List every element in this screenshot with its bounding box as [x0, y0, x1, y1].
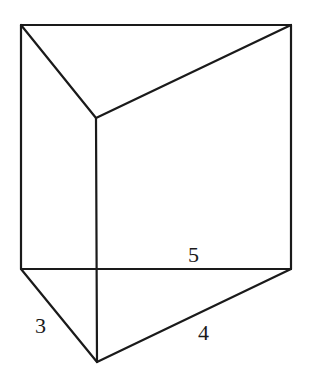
hypotenuse-label: 5	[188, 242, 199, 267]
right-leg-label: 4	[198, 320, 209, 345]
bottom-left-leg-edge	[21, 269, 97, 362]
top-right-edge	[96, 25, 291, 118]
left-leg-label: 3	[35, 313, 46, 338]
prism-svg: 5 3 4	[0, 0, 311, 381]
top-left-edge	[21, 25, 96, 118]
prism-diagram: 5 3 4	[0, 0, 311, 381]
bottom-right-leg-edge	[97, 269, 291, 362]
front-vertical-edge	[96, 118, 97, 362]
